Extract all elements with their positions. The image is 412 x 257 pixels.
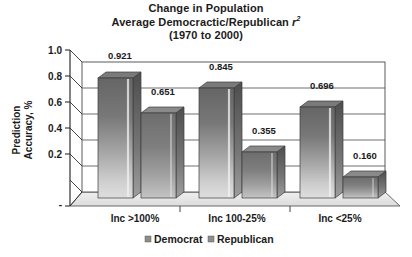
ytick-label-1-0: 1.0	[48, 45, 62, 56]
ytick-label-0-2: 0.2	[48, 149, 62, 160]
legend-swatch-democrat	[145, 236, 151, 242]
depth-tick-0-0	[70, 180, 82, 192]
value-label-democrat-3: 0.696	[310, 80, 334, 91]
plot-area: 1.0 0.8 0.6 0.4 0.2 - Prediction Accurac…	[0, 0, 412, 257]
y-axis-title-line-2: Accuracy, %	[23, 101, 34, 160]
ytick-label-0-8: 0.8	[48, 71, 62, 82]
ytick-label-0-6: 0.6	[48, 97, 62, 108]
value-label-democrat-1: 0.921	[108, 50, 132, 61]
depth-tick-0-6	[70, 102, 82, 114]
legend-label-democrat: Democrat	[154, 233, 203, 245]
bar-republican-3[interactable]	[343, 171, 386, 198]
depth-tick-0-2	[70, 154, 82, 166]
chart-root: Change in Population Average Democractic…	[0, 0, 412, 257]
legend-item-democrat[interactable]: Democrat	[145, 233, 203, 245]
category-label-2: Inc 100-25%	[208, 213, 265, 224]
legend-item-republican[interactable]: Republican	[208, 233, 274, 245]
value-label-democrat-2: 0.845	[209, 61, 233, 72]
y-axis-title-line-1: Prediction	[11, 106, 22, 155]
bar-republican-1[interactable]	[141, 107, 184, 198]
bar-democrat-2-side	[234, 82, 242, 198]
bar-republican-2-side	[277, 146, 285, 198]
bar-republican-2[interactable]	[242, 146, 285, 198]
value-label-republican-3: 0.160	[353, 150, 377, 161]
value-label-republican-2: 0.355	[252, 125, 276, 136]
depth-tick-1-0	[70, 50, 82, 62]
y-axis-ticks	[65, 50, 70, 206]
bar-democrat-3-side	[335, 101, 343, 198]
depth-tick-0-4	[70, 128, 82, 140]
bar-democrat-2[interactable]	[199, 82, 242, 198]
bar-republican-1-side	[176, 107, 184, 198]
category-label-1: Inc >100%	[111, 213, 160, 224]
ytick-label-0-4: 0.4	[48, 123, 62, 134]
y-axis-title: Prediction Accuracy, %	[11, 101, 34, 160]
bar-democrat-1-side	[133, 72, 141, 198]
category-label-3: Inc <25%	[318, 213, 361, 224]
bar-democrat-1[interactable]	[98, 72, 141, 198]
value-label-republican-1: 0.651	[151, 86, 175, 97]
depth-tick-0-8	[70, 76, 82, 88]
bar-democrat-3[interactable]	[300, 101, 343, 198]
legend-label-republican: Republican	[217, 233, 274, 245]
legend-swatch-republican	[208, 236, 214, 242]
y-axis-depth-ticks	[70, 50, 82, 206]
ytick-label-zero: -	[59, 199, 62, 210]
legend: Democrat Republican	[145, 233, 274, 245]
x-axis-ticks	[180, 206, 290, 212]
